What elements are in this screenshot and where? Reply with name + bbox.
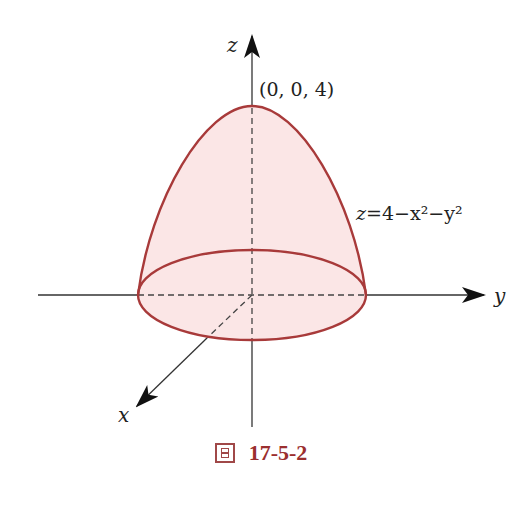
y-axis-label: y [493, 284, 506, 308]
x-axis-label: x [118, 403, 129, 427]
paraboloid-diagram: z y x (0, 0, 4) z=4−x²−y² [0, 0, 522, 515]
z-axis-label: z [226, 33, 238, 57]
figure-number: 17-5-2 [249, 440, 308, 465]
figure-caption: 17-5-2 [0, 440, 522, 466]
surface-equation-label: z=4−x²−y² [355, 202, 463, 224]
figure-glyph-icon [215, 443, 235, 463]
x-axis-outer [137, 338, 207, 406]
apex-point-label: (0, 0, 4) [259, 78, 334, 100]
